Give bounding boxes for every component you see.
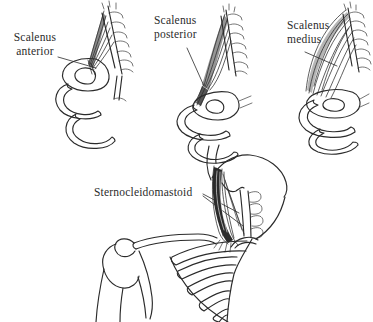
figure-sternocleidomastoid bbox=[96, 145, 287, 322]
label-scalenus-posterior: Scalenus posterior bbox=[154, 14, 212, 41]
first-rib bbox=[193, 92, 252, 120]
label-scalenus-medius: Scalenus medius bbox=[287, 19, 345, 46]
figure-scalenus-anterior bbox=[56, 1, 133, 148]
scalenus-anterior-muscle bbox=[88, 11, 114, 75]
label-scalenus-anterior: Scalenus anterior bbox=[8, 31, 62, 58]
anatomy-diagram: Scalenus anterior Scalenus posterior Sca… bbox=[0, 0, 373, 322]
cervical-spine bbox=[102, 1, 133, 101]
clavicle bbox=[133, 234, 217, 249]
leader-line-posterior bbox=[187, 48, 204, 86]
rib-cage bbox=[170, 237, 258, 322]
shoulder-and-arm bbox=[96, 239, 152, 322]
ribs bbox=[56, 84, 115, 148]
label-sternocleidomastoid: Sternocleidomastoid bbox=[94, 186, 212, 200]
first-rib bbox=[63, 59, 110, 91]
cervical-spine bbox=[240, 190, 285, 239]
